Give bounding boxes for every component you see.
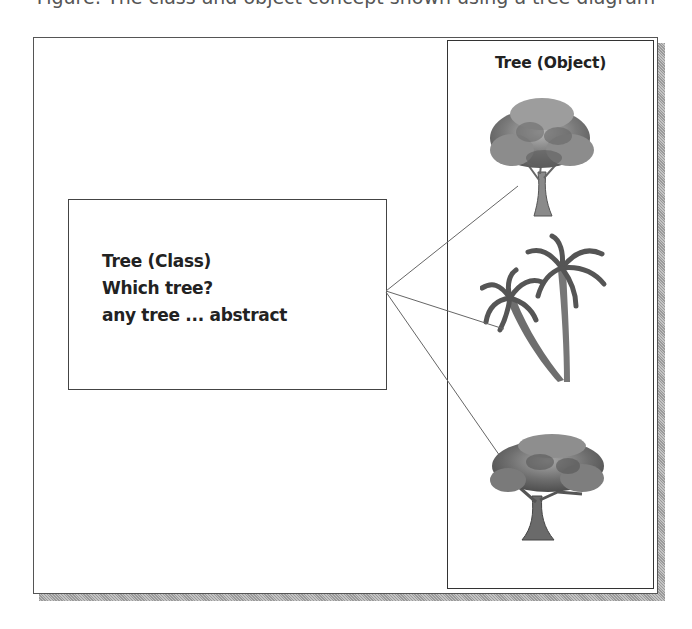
class-abstract-label: any tree ... abstract (102, 302, 287, 329)
class-description: Tree (Class) Which tree? any tree ... ab… (102, 248, 287, 329)
cropped-caption: Figure: The class and object concept sho… (0, 0, 692, 6)
palm-tree-icon (480, 232, 610, 387)
class-box: Tree (Class) Which tree? any tree ... ab… (68, 199, 387, 390)
class-name-label: Tree (Class) (102, 248, 287, 275)
acacia-tree-icon (486, 432, 611, 544)
object-panel-title: Tree (Object) (448, 54, 653, 72)
class-question-label: Which tree? (102, 275, 287, 302)
oak-tree-icon (482, 92, 602, 220)
